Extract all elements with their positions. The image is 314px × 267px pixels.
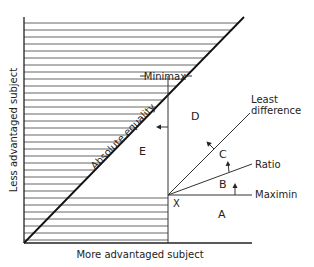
absolute-equality-label: Absolute equality	[89, 101, 158, 171]
maximin-label: Maximin	[255, 189, 297, 200]
region-b-label: B	[219, 178, 227, 191]
hatched-region-upper	[24, 23, 238, 191]
y-axis-label: Less advantaged subject	[8, 68, 19, 192]
region-a-label: A	[218, 208, 226, 221]
arrow-up-left-difference-icon	[207, 142, 215, 150]
least-difference-label-2: difference	[251, 105, 301, 116]
least-difference-label-1: Least	[251, 94, 278, 105]
arrow-up-maximin-icon	[233, 183, 238, 195]
region-d-label: D	[191, 110, 199, 123]
x-axis-label: More advantaged subject	[76, 249, 203, 260]
hatched-region-lower	[24, 198, 168, 240]
point-x-label: X	[173, 198, 180, 209]
arrow-left-icon	[156, 125, 168, 130]
region-c-label: C	[219, 148, 227, 161]
region-e-label: E	[139, 145, 146, 158]
arrow-up-ratio-icon	[226, 161, 231, 172]
welfare-criteria-diagram: Minimax Least difference Ratio Maximin X…	[0, 0, 314, 267]
least-difference-line	[168, 113, 250, 195]
ratio-line	[168, 164, 252, 195]
minimax-label: Minimax	[144, 71, 186, 82]
ratio-label: Ratio	[255, 159, 281, 170]
